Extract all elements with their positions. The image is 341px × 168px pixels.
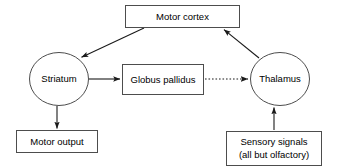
sensory-signals-label-line1: Sensory signals <box>240 136 307 147</box>
motor-cortex-label: Motor cortex <box>156 11 209 22</box>
edge-motor-cortex-to-striatum <box>82 28 145 57</box>
globus-pallidus-label: Globus pallidus <box>131 74 196 85</box>
node-motor-cortex[interactable]: Motor cortex <box>126 6 240 28</box>
motor-output-label: Motor output <box>30 136 84 147</box>
node-thalamus[interactable]: Thalamus <box>251 53 310 106</box>
node-motor-output[interactable]: Motor output <box>17 131 98 153</box>
diagram-canvas: Motor cortex Striatum Globus pallidus Th… <box>0 0 341 168</box>
node-striatum[interactable]: Striatum <box>30 53 89 106</box>
sensory-signals-label-line2: (all but olfactory) <box>239 149 309 160</box>
striatum-label: Striatum <box>41 73 76 84</box>
edge-thalamus-to-motor-cortex <box>224 30 259 58</box>
node-sensory-signals[interactable]: Sensory signals (all but olfactory) <box>227 132 322 166</box>
thalamus-label: Thalamus <box>259 73 301 84</box>
diagram-svg: Motor cortex Striatum Globus pallidus Th… <box>0 0 341 168</box>
node-globus-pallidus[interactable]: Globus pallidus <box>123 65 204 95</box>
